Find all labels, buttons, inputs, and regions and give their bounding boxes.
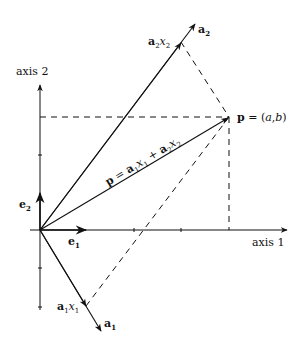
vector-diagram: axis 2 axis 1 e2 e1 a2 a2x2 a1x1 a1 p = … [0, 0, 303, 350]
point-p-label: p = (a,b) [237, 111, 287, 124]
e2-label: e2 [19, 198, 31, 213]
dashed-a2x2-to-p [181, 42, 229, 117]
a1x1-label: a1x1 [57, 300, 79, 315]
e1-label: e1 [68, 235, 80, 250]
axis-1-label: axis 1 [252, 236, 284, 249]
a2x2-label: a2x2 [148, 35, 170, 50]
vectors [40, 24, 228, 331]
vector-a2x2 [40, 43, 181, 230]
a1-label: a1 [104, 317, 116, 332]
a2-label: a2 [198, 23, 210, 38]
axis-2-label: axis 2 [16, 65, 48, 78]
sum-equation-label: p = a1x1 + a2x2 [103, 134, 183, 190]
labels: axis 2 axis 1 e2 e1 a2 a2x2 a1x1 a1 p = … [16, 23, 287, 332]
vector-p [40, 118, 228, 230]
